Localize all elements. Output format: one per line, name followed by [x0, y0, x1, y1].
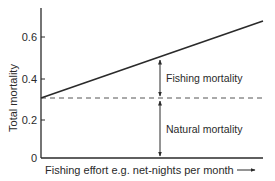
y-tick-label: 0.6 [22, 31, 37, 43]
y-tick-label: 0.4 [22, 73, 37, 85]
fishing-mortality-label: Fishing mortality [166, 72, 243, 84]
y-axis-title: Total mortality [7, 64, 19, 132]
x-axis-title: Fishing effort e.g. net-nights per month [45, 164, 234, 176]
mortality-chart: 0.6 0.4 0.2 0 Total mortality Fishing mo… [0, 0, 275, 181]
y-tick-label: 0 [31, 152, 37, 164]
y-tick-label: 0.2 [22, 114, 37, 126]
total-mortality-line [41, 21, 263, 98]
natural-mortality-label: Natural mortality [166, 123, 243, 135]
